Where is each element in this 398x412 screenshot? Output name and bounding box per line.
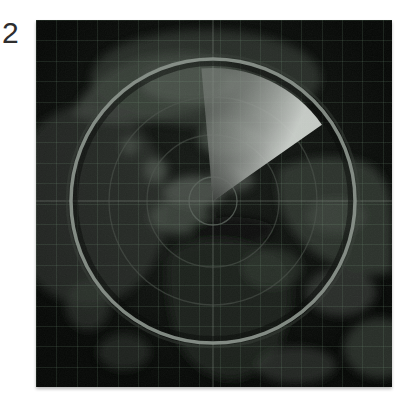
- figure-number: 2: [2, 18, 19, 48]
- radar-panel: [36, 20, 392, 387]
- radar-overlay: [36, 20, 392, 387]
- noise-texture: [36, 20, 392, 387]
- page: 2: [0, 0, 398, 412]
